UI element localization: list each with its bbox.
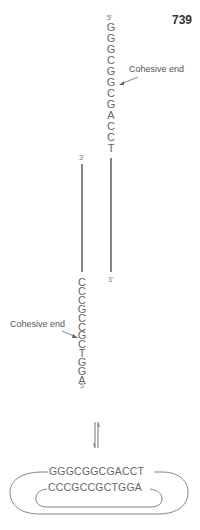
upper-cohesive-end-arrow [119, 77, 138, 85]
diagram-lines [0, 0, 200, 530]
circle-inner-strand [36, 489, 162, 507]
lower-cohesive-end-arrow [62, 331, 78, 338]
circle-outer-strand [10, 472, 188, 514]
equilibrium-arrows-icon [93, 422, 100, 448]
